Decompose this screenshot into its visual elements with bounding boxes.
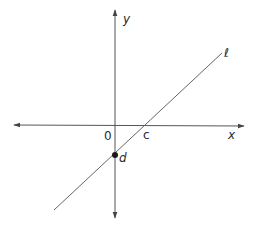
line-l-label: ℓ xyxy=(223,46,229,60)
x-axis-label: x xyxy=(227,128,236,142)
point-c-label: c xyxy=(143,128,150,142)
origin-label: 0 xyxy=(104,129,112,143)
point-d-marker xyxy=(112,152,118,158)
point-d-label: d xyxy=(119,151,127,165)
x-axis xyxy=(14,125,244,126)
y-axis-label: y xyxy=(122,12,131,26)
coordinate-diagram: y ℓ 0 c x d xyxy=(0,0,256,226)
line-l xyxy=(54,53,222,210)
